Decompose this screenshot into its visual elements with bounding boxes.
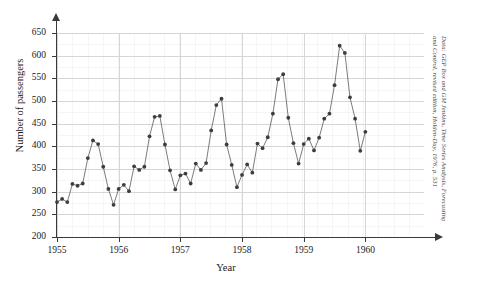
data-point-marker: [137, 168, 141, 172]
data-point-marker: [86, 156, 90, 160]
data-point-marker: [343, 51, 347, 55]
x-axis-title: Year: [0, 262, 452, 273]
data-point-marker: [101, 165, 105, 169]
x-tick-mark: [119, 237, 120, 242]
data-point-marker: [245, 163, 249, 167]
data-point-marker: [122, 183, 126, 187]
data-point-marker: [184, 172, 188, 176]
data-point-marker: [158, 114, 162, 118]
data-point-marker: [209, 129, 213, 133]
data-point-marker: [81, 182, 85, 186]
data-point-marker: [204, 161, 208, 165]
data-point-marker: [358, 149, 362, 153]
data-point-marker: [240, 173, 244, 177]
x-tick-mark: [365, 237, 366, 242]
data-point-marker: [322, 117, 326, 121]
data-point-marker: [348, 95, 352, 99]
data-series-airline-passengers: [57, 33, 424, 237]
x-axis-arrow-icon: [435, 233, 443, 241]
y-tick-label: 200: [0, 232, 46, 242]
data-point-marker: [55, 200, 59, 204]
series-line: [57, 46, 365, 205]
y-axis-arrow-icon: [52, 13, 60, 21]
data-point-marker: [168, 168, 172, 172]
x-tick-label: 1958: [220, 245, 264, 255]
data-point-marker: [214, 103, 218, 107]
data-point-marker: [91, 139, 95, 143]
data-point-marker: [328, 112, 332, 116]
data-point-marker: [96, 142, 100, 146]
data-point-marker: [266, 135, 270, 139]
data-point-marker: [194, 162, 198, 166]
data-point-marker: [250, 171, 254, 175]
data-point-marker: [338, 44, 342, 48]
data-point-marker: [199, 168, 203, 172]
x-tick-label: 1956: [97, 245, 141, 255]
x-axis-line: [56, 237, 436, 238]
data-point-marker: [256, 142, 260, 146]
y-tick-label: 250: [0, 209, 46, 219]
data-point-marker: [353, 117, 357, 121]
data-point-marker: [173, 188, 177, 192]
data-point-marker: [307, 137, 311, 141]
x-tick-mark: [180, 237, 181, 242]
data-point-marker: [286, 116, 290, 120]
data-point-marker: [276, 77, 280, 81]
data-point-marker: [106, 187, 110, 191]
y-axis-title: Number of passengers: [14, 21, 25, 191]
data-point-marker: [163, 143, 167, 147]
x-tick-mark: [242, 237, 243, 242]
data-point-marker: [302, 142, 306, 146]
data-point-marker: [71, 182, 75, 186]
data-point-marker: [127, 189, 131, 193]
data-point-marker: [261, 146, 265, 150]
data-point-marker: [225, 143, 229, 147]
x-tick-mark: [304, 237, 305, 242]
chart-figure: 200250300350400450500550600650 195519561…: [0, 0, 492, 282]
data-point-marker: [364, 130, 368, 134]
data-point-marker: [132, 164, 136, 168]
data-point-marker: [117, 187, 121, 191]
data-point-marker: [312, 149, 316, 153]
data-point-marker: [281, 72, 285, 76]
x-tick-mark: [57, 237, 58, 242]
data-point-marker: [178, 173, 182, 177]
x-tick-label: 1957: [158, 245, 202, 255]
data-point-marker: [76, 184, 80, 188]
data-point-marker: [220, 97, 224, 101]
data-point-marker: [143, 165, 147, 169]
x-tick-label: 1955: [35, 245, 79, 255]
data-point-marker: [153, 115, 157, 119]
data-point-marker: [235, 185, 239, 189]
source-credit: Data: GEP Box and GM Jenkins, Time Serie…: [431, 36, 449, 232]
data-point-marker: [230, 163, 234, 167]
x-tick-label: 1959: [282, 245, 326, 255]
data-point-marker: [292, 141, 296, 145]
data-point-marker: [60, 197, 64, 201]
data-point-marker: [333, 83, 337, 87]
data-point-marker: [148, 134, 152, 138]
data-point-marker: [317, 136, 321, 140]
data-point-marker: [297, 162, 301, 166]
data-point-marker: [271, 112, 275, 116]
x-tick-label: 1960: [343, 245, 387, 255]
data-point-marker: [65, 200, 69, 204]
data-point-marker: [189, 182, 193, 186]
data-point-marker: [112, 203, 116, 207]
